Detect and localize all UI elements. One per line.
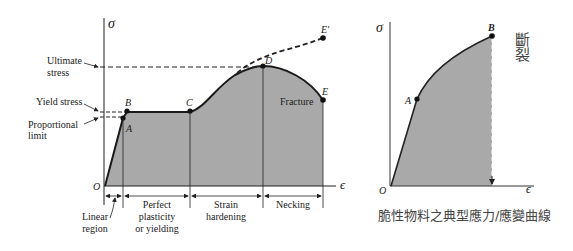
plasticity-label-line2: plasticity [139, 211, 176, 222]
proportional-limit-label-line2: limit [28, 130, 47, 141]
point-e-label: E [321, 86, 328, 97]
linear-leader [110, 198, 115, 218]
plasticity-label-line1: Perfect [143, 199, 172, 210]
linear-region-label-line1: Linear [82, 211, 109, 222]
origin-label: O [93, 181, 100, 192]
ultimate-stress-label-line1: Ultimate [47, 55, 83, 66]
hardening-label-line1: Strain [214, 199, 238, 210]
curve-fill-area [105, 66, 323, 186]
point-e [320, 97, 326, 103]
brittle-fill-area [391, 36, 492, 186]
brittle-point-a-label: A [404, 95, 412, 106]
proportional-limit-label-line1: Proportional [28, 119, 78, 130]
point-e-prime [320, 35, 326, 41]
brittle-origin-label: O [379, 185, 386, 196]
linear-region-label-line2: region [82, 223, 108, 234]
brittle-point-b-label: B [487, 22, 495, 33]
point-b-label: B [125, 97, 131, 108]
brittle-point-a [414, 96, 419, 101]
ultimate-stress-label-line2: stress [47, 67, 69, 78]
brittle-stress-strain-diagram: σ ϵ O A B 斷 裂 脆性物料之典型應力/應變曲線 [376, 20, 551, 223]
yield-stress-label: Yield stress [36, 96, 82, 107]
brittle-point-b [489, 33, 495, 39]
point-a [120, 115, 125, 120]
hardening-label-line2: hardening [206, 211, 246, 222]
fracture-label-char2: 裂 [515, 46, 530, 64]
proportional-leader [84, 118, 98, 124]
yield-leader [84, 104, 98, 111]
y-axis-symbol: σ [108, 16, 116, 31]
point-c-label: C [186, 97, 193, 108]
point-a-label: A [125, 123, 133, 134]
point-d-label: D [264, 55, 273, 66]
x-axis-symbol: ϵ [340, 177, 346, 192]
fracture-label: Fracture [280, 96, 314, 107]
stress-strain-figure: σ ϵ O A B C D E E' Fracture Ultimate str… [0, 0, 573, 251]
point-c [187, 108, 192, 113]
necking-label: Necking [276, 199, 310, 210]
brittle-caption: 脆性物料之典型應力/應變曲線 [378, 208, 551, 223]
brittle-x-axis-symbol: ϵ [526, 182, 532, 196]
brittle-y-axis-symbol: σ [376, 20, 384, 35]
point-e-prime-label: E' [320, 24, 330, 35]
plasticity-label-line3: or yielding [135, 223, 179, 234]
ductile-stress-strain-diagram: σ ϵ O A B C D E E' Fracture Ultimate str… [28, 16, 346, 234]
ultimate-leader [84, 63, 98, 67]
point-b [124, 108, 129, 113]
